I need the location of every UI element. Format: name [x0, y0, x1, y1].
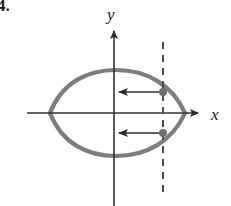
x-axis-label: x	[210, 105, 219, 124]
upper-intersection-point	[159, 88, 167, 96]
y-axis-label: y	[105, 5, 115, 24]
lower-intersection-point	[159, 129, 167, 137]
problem-number-label: 4.	[0, 0, 10, 14]
math-figure: 4. x y	[0, 0, 231, 206]
figure-canvas: x y	[0, 0, 231, 206]
